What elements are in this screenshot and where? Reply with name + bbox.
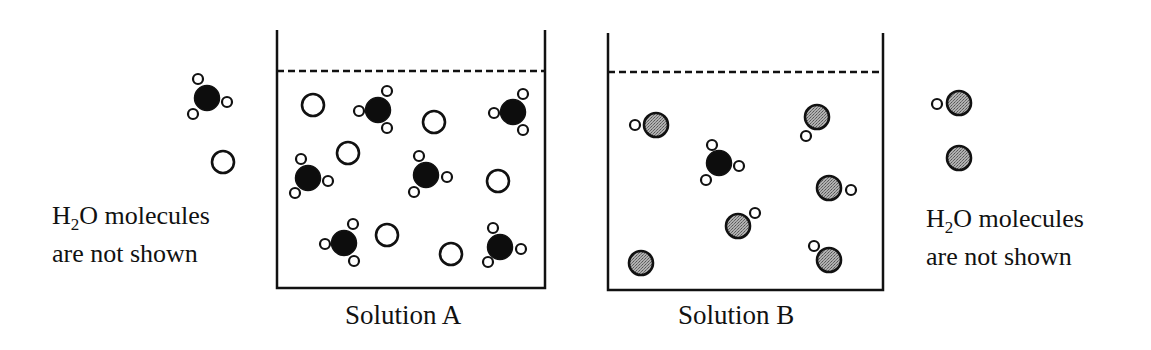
- small-atom-icon: [382, 86, 392, 96]
- formula-subscript: 2: [71, 215, 80, 234]
- small-atom-icon: [222, 97, 232, 107]
- small-atom-icon: [516, 244, 526, 254]
- particle-diagram: [0, 0, 1151, 350]
- gray-particle-icon: [932, 91, 971, 115]
- small-atom-icon: [188, 109, 198, 119]
- small-atom-icon: [518, 89, 528, 99]
- small-atom-icon: [193, 74, 203, 84]
- small-atom-icon: [801, 131, 811, 141]
- small-atom-icon: [701, 175, 711, 185]
- small-atom-icon: [630, 120, 640, 130]
- open-particle-icon: [487, 170, 509, 192]
- formula-rest: O molecules: [953, 204, 1084, 233]
- small-atom-icon: [382, 123, 392, 133]
- left-legend-note: H2O molecules are not shown: [52, 197, 210, 273]
- black-particle-icon: [701, 140, 744, 185]
- small-atom-icon: [290, 188, 300, 198]
- small-atom-icon: [488, 223, 498, 233]
- open-particle-icon: [337, 142, 359, 164]
- open-particle-icon: [440, 243, 462, 265]
- gray-particle-icon: [947, 146, 971, 170]
- black-particle-icon: [320, 219, 359, 266]
- small-atom-icon: [707, 140, 717, 150]
- black-particle-icon: [489, 89, 528, 135]
- small-atom-icon: [483, 257, 493, 267]
- small-atom-icon: [489, 108, 499, 118]
- small-atom-icon: [409, 187, 419, 197]
- formula-subscript: 2: [945, 218, 954, 237]
- beakers: [277, 30, 883, 290]
- small-atom-icon: [442, 172, 452, 182]
- formula-h: H: [52, 201, 71, 230]
- small-atom-icon: [734, 161, 744, 171]
- small-atom-icon: [323, 176, 333, 186]
- small-atom-icon: [846, 185, 856, 195]
- small-atom-icon: [932, 99, 942, 109]
- gray-particle-icon: [809, 241, 841, 272]
- particles: [188, 74, 971, 275]
- small-atom-icon: [809, 241, 819, 251]
- small-atom-icon: [320, 239, 330, 249]
- solution-a-label: Solution A: [345, 300, 461, 331]
- black-particle-icon: [409, 151, 452, 197]
- small-atom-icon: [349, 256, 359, 266]
- open-particle-icon: [376, 224, 398, 246]
- black-particle-icon: [483, 223, 526, 267]
- open-particle-icon: [423, 111, 445, 133]
- beaker-solution-b: [608, 33, 883, 290]
- open-particle-icon: [302, 94, 324, 116]
- solution-b-label: Solution B: [678, 300, 794, 331]
- black-particle-icon: [290, 154, 333, 198]
- formula-rest: O molecules: [79, 201, 210, 230]
- right-legend-note: H2O molecules are not shown: [926, 200, 1084, 276]
- right-legend-note-line2: are not shown: [926, 238, 1084, 276]
- right-legend-note-line1: H2O molecules: [926, 200, 1084, 238]
- left-legend-note-line1: H2O molecules: [52, 197, 210, 235]
- gray-particle-icon: [801, 105, 829, 141]
- small-atom-icon: [414, 151, 424, 161]
- small-atom-icon: [296, 154, 306, 164]
- gray-particle-icon: [817, 176, 856, 200]
- small-atom-icon: [354, 106, 364, 116]
- small-atom-icon: [750, 208, 760, 218]
- black-particle-icon: [354, 86, 392, 133]
- gray-particle-icon: [726, 208, 760, 238]
- gray-particle-icon: [629, 251, 653, 275]
- left-legend-note-line2: are not shown: [52, 235, 210, 273]
- formula-h: H: [926, 204, 945, 233]
- small-atom-icon: [518, 125, 528, 135]
- open-particle-icon: [212, 151, 234, 173]
- gray-particle-icon: [630, 113, 668, 137]
- small-atom-icon: [348, 219, 358, 229]
- black-particle-icon: [188, 74, 232, 119]
